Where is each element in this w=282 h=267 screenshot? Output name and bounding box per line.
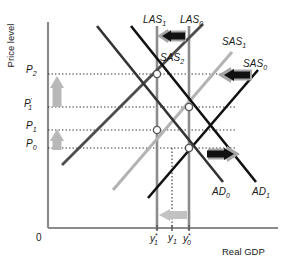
las-shift-arrow bbox=[157, 29, 186, 43]
equilibrium-point-2 bbox=[153, 70, 160, 77]
price-rise-arrow-upper bbox=[50, 76, 64, 107]
output-fall-arrow bbox=[159, 209, 187, 221]
y-axis-title: Price level bbox=[5, 15, 16, 77]
as-ad-diagram: Price level Real GDP 0 P2 P'1 P1 P0 y*1 … bbox=[0, 0, 282, 267]
y-tick-p2: P2 bbox=[26, 64, 37, 77]
sas0-label: SAS0 bbox=[243, 58, 267, 71]
equilibrium-points bbox=[153, 70, 192, 151]
las1-label: LAS1 bbox=[143, 14, 166, 27]
sas0-curve bbox=[148, 70, 258, 198]
ad1-label: AD1 bbox=[252, 186, 270, 199]
sas2-label: SAS2 bbox=[160, 52, 184, 65]
sas1-label: SAS1 bbox=[222, 36, 246, 49]
equilibrium-point-0 bbox=[185, 144, 192, 151]
equilibrium-point-1prime bbox=[185, 103, 192, 110]
x-tick-y1-star: y*1 bbox=[150, 232, 158, 246]
ad1-curve bbox=[131, 26, 256, 182]
x-tick-y1: y1 bbox=[168, 232, 177, 245]
y-tick-p1-prime: P'1 bbox=[24, 97, 32, 111]
las0-label: LAS0 bbox=[180, 14, 203, 27]
price-rise-arrow-lower bbox=[50, 129, 64, 150]
sas2-curve bbox=[62, 24, 203, 165]
y-tick-p1: P1 bbox=[26, 120, 37, 133]
equilibrium-point-1 bbox=[153, 126, 160, 133]
x-axis-title: Real GDP bbox=[222, 246, 265, 257]
y-tick-p0: P0 bbox=[26, 138, 37, 151]
x-tick-y0-star: y*0 bbox=[183, 232, 191, 246]
origin-label: 0 bbox=[36, 232, 42, 243]
ad0-label: AD0 bbox=[212, 186, 230, 199]
ad0-curve bbox=[97, 26, 223, 182]
